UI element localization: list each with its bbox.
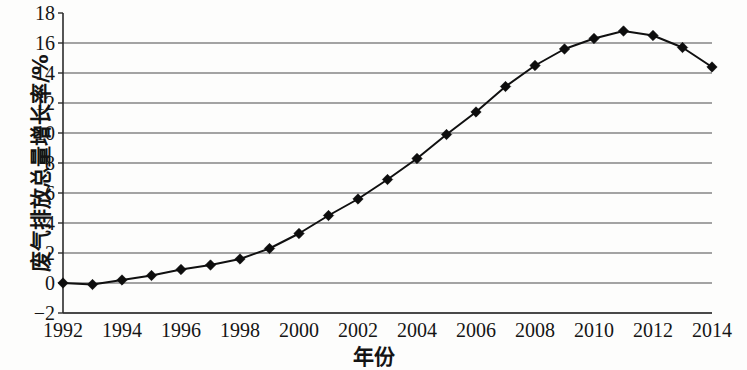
data-point-marker [87,279,97,289]
data-point-marker [176,264,186,274]
data-point-marker [264,243,274,253]
data-point-marker [323,210,333,220]
data-point-marker [294,228,304,238]
series-line-waste-gas-growth-rate [63,31,712,285]
data-point-marker [205,260,215,270]
series-markers [58,26,717,290]
data-point-marker [235,254,245,264]
data-point-marker [589,33,599,43]
data-point-marker [117,275,127,285]
data-point-marker [559,44,569,54]
chart-container: 废气排放总量增长率/% 年份 181614121086420−2 1992199… [0,0,747,370]
plot-area [0,0,747,370]
data-point-marker [707,62,717,72]
data-point-marker [146,270,156,280]
data-point-marker [353,194,363,204]
data-point-marker [648,30,658,40]
data-point-marker [618,26,628,36]
data-point-marker [677,42,687,52]
data-point-marker [58,278,68,288]
